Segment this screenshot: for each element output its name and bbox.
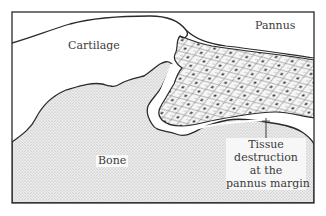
tissue-destruction-label: Tissue destruction at the pannus margin: [226, 138, 306, 190]
pannus-region: [159, 36, 314, 126]
bone-label: Bone: [96, 155, 128, 167]
pannus-label: Pannus: [255, 20, 295, 32]
rheumatoid-joint-diagram: Cartilage Pannus Bone Tissue destruction…: [0, 0, 326, 216]
cartilage-label: Cartilage: [68, 40, 120, 52]
tissue-destruction-line-4: pannus margin: [226, 177, 306, 190]
tissue-destruction-line-1: Tissue: [226, 138, 306, 151]
tissue-destruction-line-2: destruction: [226, 151, 306, 164]
tissue-destruction-line-3: at the: [226, 164, 306, 177]
